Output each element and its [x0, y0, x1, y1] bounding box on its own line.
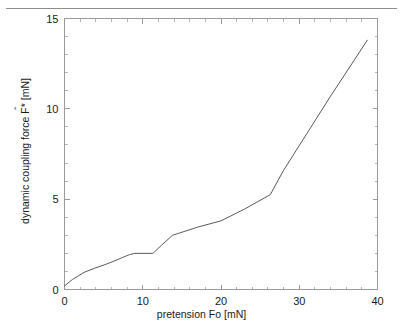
y-axis-title: dynamic coupling force ˆF* [mN] — [19, 78, 31, 224]
page-header — [0, 0, 403, 12]
chart-plot-area — [0, 12, 403, 335]
y-tick-label: 0 — [37, 284, 59, 296]
x-axis-title: pretension Fo [mN] — [0, 308, 403, 320]
circumflex-accent-icon: ˆ — [13, 107, 23, 110]
x-tick-label: 20 — [215, 295, 227, 307]
y-tick-label: 15 — [37, 13, 59, 25]
x-axis-minor-ticks — [65, 19, 378, 290]
x-tick-label: 30 — [293, 295, 305, 307]
x-axis-major-ticks — [65, 19, 378, 290]
y-axis-minor-ticks — [65, 19, 378, 290]
x-tick-label: 40 — [371, 295, 383, 307]
header-divider — [6, 8, 397, 9]
y-axis-title-prefix: dynamic coupling force — [19, 114, 31, 224]
x-tick-label: 10 — [137, 295, 149, 307]
chart-figure: 010203040 051015 pretension Fo [mN] dyna… — [0, 12, 403, 335]
axis-frame — [65, 19, 378, 290]
data-series-line — [65, 40, 368, 286]
y-tick-label: 5 — [37, 193, 59, 205]
y-axis-major-ticks — [65, 19, 378, 290]
y-tick-label: 10 — [37, 103, 59, 115]
x-tick-label: 0 — [61, 295, 67, 307]
y-axis-title-variable: ˆF* — [19, 103, 31, 114]
y-axis-title-wrapper: dynamic coupling force ˆF* [mN] — [16, 12, 34, 290]
y-axis-title-units: [mN] — [19, 78, 31, 103]
